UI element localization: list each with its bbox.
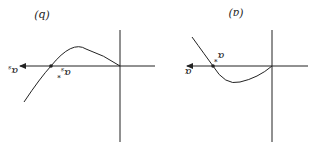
panel-a bbox=[186, 30, 308, 142]
caption-b: (b) bbox=[34, 9, 50, 22]
equilibrium-point bbox=[211, 64, 215, 68]
curve-b bbox=[24, 47, 120, 102]
caption-a: (a) bbox=[228, 7, 243, 20]
axis-label-a: α bbox=[184, 67, 191, 78]
diagram-canvas: (b) αs αs* (a) α α* bbox=[0, 0, 321, 156]
arrow-icon bbox=[19, 63, 26, 69]
panel-b bbox=[19, 30, 155, 142]
point-label-b: αs* bbox=[57, 67, 71, 79]
figure: (b) αs αs* (a) α α* bbox=[0, 0, 321, 156]
axis-label-b: αs bbox=[8, 65, 18, 77]
point-label-a: α* bbox=[213, 51, 224, 63]
curve-a bbox=[192, 37, 272, 83]
equilibrium-point bbox=[49, 64, 53, 68]
